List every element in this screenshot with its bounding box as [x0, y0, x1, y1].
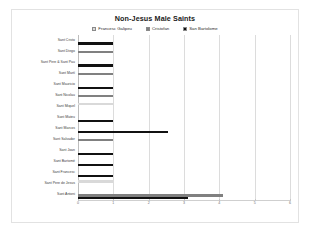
legend-entry[interactable]: Francesc Galipeu: [92, 27, 132, 31]
category-label: Sant Pere de Jesus: [44, 183, 75, 187]
chart-legend: Francesc GalipeuCristofanSan Bartolome: [12, 27, 298, 31]
bar-2[interactable]: [78, 64, 113, 66]
legend-label: San Bartolome: [189, 27, 217, 31]
bar-2[interactable]: [78, 197, 188, 199]
bar-2[interactable]: [78, 164, 113, 166]
legend-label: Francesc Galipeu: [98, 27, 132, 31]
bar-row: Sant Pere & Sant Pau: [78, 57, 290, 68]
gridline: [290, 35, 291, 201]
x-tick-label: 5: [254, 202, 256, 206]
x-tick-label: 0: [77, 202, 79, 206]
bar-row: Sant Bartomé: [78, 157, 290, 168]
x-tick-mark: [255, 199, 256, 201]
category-label: Sant Marcos: [55, 127, 75, 131]
x-tick-mark: [219, 199, 220, 201]
legend-swatch-icon: [92, 27, 96, 31]
x-tick-mark: [113, 199, 114, 201]
bar-row: Sant Mauricio: [78, 79, 290, 90]
bar-row: Sant Joan: [78, 146, 290, 157]
category-label: Sant Diego: [58, 50, 75, 54]
legend-swatch-icon: [183, 27, 187, 31]
chart-container: Non-Jesus Male Saints Francesc GalipeuCr…: [11, 9, 299, 223]
bar-row: Sant Pere de Jesus: [78, 179, 290, 190]
x-tick-mark: [184, 199, 185, 201]
bar-0[interactable]: [78, 103, 113, 105]
category-label: Sant Martí: [59, 72, 75, 76]
bar-row: Sant Diego: [78, 46, 290, 57]
plot-area: Sant CristoSant DiegoSant Pere & Sant Pa…: [78, 35, 290, 201]
category-label: Sant Mateu: [57, 116, 75, 120]
category-label: Sant Miquel: [57, 105, 75, 109]
legend-entry[interactable]: San Bartolome: [183, 27, 217, 31]
bar-1[interactable]: [78, 73, 113, 75]
x-tick-label: 1: [112, 202, 114, 206]
bar-row: Sant Marcos: [78, 124, 290, 135]
category-label: Sant Pere & Sant Pau: [41, 61, 75, 65]
x-tick-mark: [149, 199, 150, 201]
bar-row: Sant Nicolau: [78, 90, 290, 101]
category-label: Sant Mauricio: [54, 83, 75, 87]
legend-swatch-icon: [146, 27, 150, 31]
x-axis-tick-labels: 0123456: [78, 202, 290, 211]
category-label: Sant Nicolau: [55, 94, 75, 98]
chart-title: Non-Jesus Male Saints: [12, 14, 298, 23]
bar-2[interactable]: [78, 153, 113, 155]
bar-0[interactable]: [78, 180, 113, 182]
bar-row: Sant Francesc: [78, 168, 290, 179]
x-tick-mark: [290, 199, 291, 201]
category-label: Sant Joan: [59, 149, 75, 153]
legend-label: Cristofan: [152, 27, 169, 31]
category-label: Sant Antoni: [57, 194, 75, 198]
category-label: Sant Salvador: [53, 138, 75, 142]
bar-row: Sant Mateu: [78, 112, 290, 123]
bar-1[interactable]: [78, 194, 223, 196]
bar-1[interactable]: [78, 95, 113, 97]
bar-2[interactable]: [78, 175, 113, 177]
bar-1[interactable]: [78, 51, 113, 53]
x-tick-label: 4: [218, 202, 220, 206]
category-label: Sant Francesc: [52, 172, 75, 176]
x-tick-label: 6: [289, 202, 291, 206]
legend-entry[interactable]: Cristofan: [146, 27, 169, 31]
x-tick-label: 2: [148, 202, 150, 206]
bar-row: Sant Miquel: [78, 101, 290, 112]
bar-1[interactable]: [78, 139, 113, 141]
bar-row: Sant Salvador: [78, 135, 290, 146]
bar-row: Sant Cristo: [78, 35, 290, 46]
bar-2[interactable]: [78, 87, 113, 89]
category-label: Sant Cristo: [58, 39, 75, 43]
bar-2[interactable]: [78, 131, 168, 133]
bar-2[interactable]: [78, 42, 113, 44]
bar-2[interactable]: [78, 120, 113, 122]
x-tick-mark: [78, 199, 79, 201]
category-label: Sant Bartomé: [54, 161, 75, 165]
bar-row: Sant Martí: [78, 68, 290, 79]
x-tick-label: 3: [183, 202, 185, 206]
